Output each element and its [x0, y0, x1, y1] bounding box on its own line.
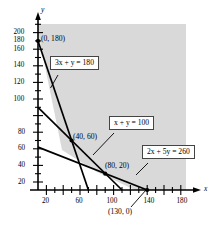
x-tick-label-100: 100	[107, 198, 118, 205]
equation-box-2x-5y-260: 2x + 5y = 260	[142, 145, 195, 159]
graph-figure: y x 20 40 60 80 100 120 140 160 180 200 …	[0, 0, 224, 232]
equation-box-x-y-100: x + y = 100	[109, 116, 154, 130]
x-tick-label-140: 140	[144, 198, 155, 205]
y-axis-arrow	[35, 12, 41, 20]
y-tick-label-80: 80	[18, 129, 25, 136]
equation-box-3x-y-180: 3x + y = 180	[50, 56, 99, 70]
y-axis-name: y	[41, 6, 44, 14]
y-tick-label-40: 40	[18, 162, 25, 169]
x-tick-label-20: 20	[42, 198, 49, 205]
x-tick-label-60: 60	[76, 198, 83, 205]
y-tick-label-180: 180	[14, 37, 25, 44]
y-tick-label-100: 100	[14, 96, 25, 103]
x-axis-name: x	[204, 185, 207, 193]
x-axis-arrow	[193, 187, 201, 193]
vertex-dot-0-180	[36, 39, 40, 43]
point-label-0-180: (0, 180)	[41, 35, 65, 43]
y-tick-label-200: 200	[14, 29, 25, 36]
y-tick-label-120: 120	[14, 79, 25, 86]
point-label-40-60: (40, 60)	[73, 133, 97, 141]
y-tick-label-60: 60	[18, 145, 25, 152]
y-tick-label-20: 20	[18, 179, 25, 186]
y-tick-label-140: 140	[14, 62, 25, 69]
y-tick-label-160: 160	[14, 46, 25, 53]
point-label-130-0: (130, 0)	[108, 208, 132, 216]
x-tick-label-180: 180	[177, 198, 188, 205]
point-label-80-20: (80, 20)	[105, 162, 129, 170]
vertex-dot-80-20	[103, 172, 107, 176]
